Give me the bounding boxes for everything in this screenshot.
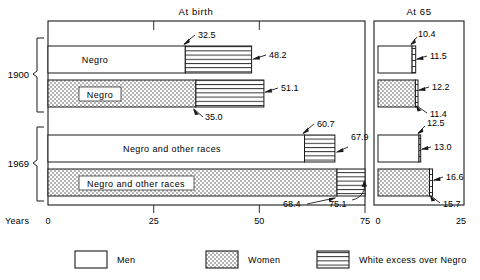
value-label: 16.6 [446,172,464,182]
value-label: 12.2 [432,82,450,92]
bar-segment-negro [378,46,412,73]
callout-12-5: 12.5 [417,118,445,135]
bar-segment-white-excess [305,135,335,162]
bar-at65-1969-women [378,169,433,196]
bar-segment-negro [378,80,415,107]
value-label: 15.7 [443,199,461,209]
callout-15-7: 15.7 [430,195,461,209]
value-label: 13.0 [434,142,452,152]
bar-segment-white-excess [412,46,416,73]
callout-48-2: 48.2 [252,50,287,60]
legend-label-women: Women [248,255,280,265]
callout-13-0: 13.0 [421,142,452,152]
value-label: 35.0 [205,112,223,122]
bar-segment-negro [378,135,419,162]
callout-51-1: 51.1 [264,83,299,93]
bar-label-negro: Negro [82,55,109,65]
bar-birth-1969-men: Negro and other races [48,135,335,162]
bar-birth-1900-women: Negro [48,80,264,107]
value-label: 48.2 [269,50,287,60]
callout-60-7: 60.7 [302,119,335,135]
value-label: 60.7 [317,119,335,129]
bar-segment-white-excess [415,80,418,107]
callout-16-6: 16.6 [433,172,464,182]
value-label: 51.1 [281,83,299,93]
legend-swatch-women [206,251,238,268]
callout-10-4: 10.4 [410,29,436,46]
legend-swatch-men [75,251,107,268]
legend: Men Women White excess over Negro [75,251,466,268]
bar-at65-1900-women [378,80,418,107]
bar-segment-negro [378,169,430,196]
bar-at65-1969-men [378,135,421,162]
bar-label-negro: Negro [87,90,114,100]
callout-12-2: 12.2 [418,82,450,92]
legend-item-white-excess: White excess over Negro [317,251,466,268]
callout-35-0: 35.0 [193,108,223,122]
value-label: 67.9 [351,132,369,142]
bar-birth-1900-men: Negro [48,46,252,73]
group-bracket-1969: 1969 [8,127,44,201]
group-label-1900: 1900 [8,69,29,80]
callout-67-9: 67.9 [336,132,369,153]
bar-label-negro-other: Negro and other races [123,144,221,154]
xtick-birth-75: 75 [360,216,370,226]
panel-title-at-65: At 65 [406,6,431,17]
value-label: 11.5 [430,51,447,61]
xtick-at65-0: 0 [375,216,380,226]
xtick-birth-0: 0 [45,216,50,226]
xtick-birth-50: 50 [254,216,264,226]
bar-segment-negro [48,80,196,107]
bar-segment-white-excess [196,80,264,107]
panel-at-birth: Negro 32.5 48.2 Negro 51.1 35.0 [48,21,369,213]
callout-11-5: 11.5 [416,51,447,61]
value-label: 32.5 [198,30,216,40]
bar-segment-white-excess [419,135,421,162]
group-label-1969: 1969 [8,158,29,169]
bar-birth-1969-women: Negro and other races [48,169,365,196]
bar-segment-white-excess [337,169,365,196]
group-bracket-1900: 1900 [8,38,44,112]
value-label: 10.4 [418,29,436,39]
bar-segment-negro [48,46,185,73]
panel-title-at-birth: At birth [179,6,214,17]
xtick-at65-25: 25 [456,216,466,226]
legend-item-women: Women [206,251,280,268]
bar-label-negro-other: Negro and other races [87,179,185,189]
value-label: 75.1 [329,199,347,209]
legend-label-men: Men [117,255,135,265]
value-label: 12.5 [427,118,445,128]
legend-swatch-white-excess [317,251,349,268]
callout-32-5: 32.5 [183,30,216,46]
chart-figure: At birth At 65 Negro 32.5 48.2 [0,0,480,280]
chart-svg: At birth At 65 Negro 32.5 48.2 [0,0,480,280]
bar-segment-white-excess [185,46,251,73]
panel-at-65: 10.4 11.5 12.2 11.4 [374,21,464,209]
value-label: 68.4 [283,199,301,209]
bar-at65-1900-men [378,46,416,73]
callout-11-4: 11.4 [416,105,447,119]
bar-segment-white-excess [430,169,433,196]
legend-item-men: Men [75,251,135,268]
xtick-birth-25: 25 [149,216,159,226]
legend-label-white-excess: White excess over Negro [359,255,466,265]
axis-label-years: Years [5,216,29,226]
